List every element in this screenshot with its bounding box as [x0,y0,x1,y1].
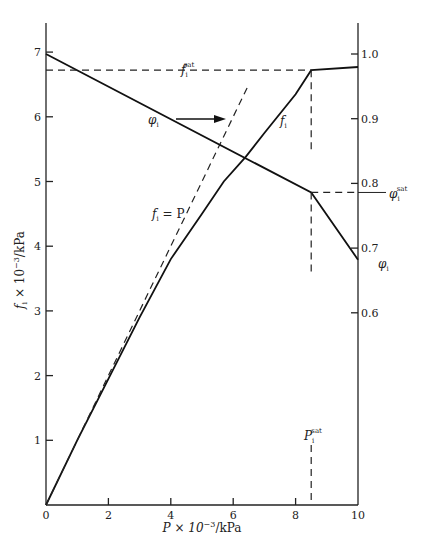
x-axis-label: P × 10−3/kPa [162,520,242,535]
arrow-right-icon [214,115,226,123]
p-sat-label: Pisat [303,427,322,445]
y-tick-label: 6 [34,111,41,124]
y-tick-label: 5 [34,176,41,189]
y-tick-label: 1 [34,434,41,447]
chart: 024681012345670.60.70.80.91.0 P × 10−3/k… [0,0,425,552]
phi-right-label: φi [378,257,389,273]
phi-arrow-label: φi [148,113,159,129]
y-axis-label: fi × 10−3/kPa [12,231,29,310]
y2-tick-label: 1.0 [361,48,379,61]
x-tick-label: 2 [105,509,112,522]
x-tick-label: 10 [351,509,365,522]
y2-tick-label: 0.6 [361,307,379,320]
ticks: 024681012345670.60.70.80.91.0 [34,46,379,522]
y-tick-label: 2 [34,370,41,383]
y-tick-label: 4 [34,240,41,253]
f-equals-p-label: fi = P [151,207,184,223]
y2-tick-label: 0.8 [361,177,379,190]
y-tick-label: 7 [34,46,41,59]
f-curve-label: fi [279,114,287,130]
y2-tick-label: 0.9 [361,113,379,126]
x-tick-label: 0 [43,509,50,522]
y2-tick-label: 0.7 [361,242,379,255]
y-tick-label: 3 [34,305,41,318]
phi-sat-label: φisat [389,185,407,203]
reference-lines [46,70,386,505]
x-tick-label: 8 [292,509,299,522]
